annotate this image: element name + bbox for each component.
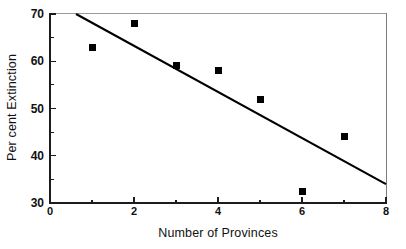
- plot-area: 304050607002468: [50, 14, 386, 203]
- x-tick-label: 6: [287, 206, 317, 217]
- data-point: [173, 62, 180, 69]
- x-tick-label: 8: [371, 206, 401, 217]
- trend-line-segment: [76, 14, 386, 184]
- y-tick-label: 60: [4, 55, 44, 67]
- data-point: [89, 44, 96, 51]
- y-tick-label: 70: [4, 8, 44, 20]
- extinction-vs-provinces-chart: Per cent Extinction 304050607002468 Numb…: [0, 0, 406, 249]
- data-point: [215, 67, 222, 74]
- x-axis-title: Number of Provinces: [50, 226, 386, 240]
- x-tick-label: 0: [35, 206, 65, 217]
- y-tick-label: 40: [4, 150, 44, 162]
- data-point: [341, 133, 348, 140]
- y-tick-label: 50: [4, 103, 44, 115]
- regression-trend-line: [50, 14, 386, 203]
- data-point: [257, 96, 264, 103]
- x-tick-label: 2: [119, 206, 149, 217]
- data-point: [299, 188, 306, 195]
- data-point: [131, 20, 138, 27]
- x-tick-label: 4: [203, 206, 233, 217]
